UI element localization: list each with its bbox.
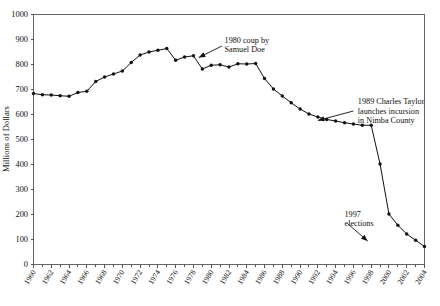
data-point (94, 80, 97, 83)
x-tick-label: 1988 (271, 268, 287, 286)
data-point (174, 59, 177, 62)
annot-1980-coup-text: 1980 coup bySamuel Doe (225, 36, 270, 55)
data-point (156, 49, 159, 52)
data-point (254, 62, 257, 65)
y-tick-label: 400 (15, 160, 28, 169)
data-point (58, 94, 61, 97)
data-point (103, 75, 106, 78)
y-tick-label: 100 (15, 235, 28, 244)
data-point (378, 162, 381, 165)
x-tick-label: 2004 (413, 268, 429, 286)
data-point (387, 212, 390, 215)
x-tick-label: 1960 (22, 268, 38, 286)
data-series (32, 47, 426, 248)
x-tick-label: 1996 (342, 268, 358, 286)
data-point (414, 239, 417, 242)
chart-container: 01002003004005006007008009001000 1960196… (0, 0, 440, 306)
y-tick-label: 0 (24, 260, 28, 269)
y-axis-title-text: Millions of Dollars (1, 105, 11, 172)
x-tick-label: 1990 (289, 268, 305, 286)
y-tick-label: 500 (15, 135, 28, 144)
data-point (201, 67, 204, 70)
data-point (192, 54, 195, 57)
x-tick-label: 1994 (324, 268, 340, 286)
y-tick-label: 900 (15, 35, 28, 44)
chart-annotations: 1980 coup bySamuel Doe1989 Charles Taylo… (199, 36, 425, 241)
data-point (183, 55, 186, 58)
data-point (307, 112, 310, 115)
x-tick-label: 1998 (360, 268, 376, 286)
y-tick-label: 800 (15, 60, 28, 69)
data-point (227, 65, 230, 68)
data-point (138, 53, 141, 56)
annot-1989-taylor-text: 1989 Charles Taylorlaunches incursionin … (358, 97, 425, 125)
x-tick-label: 1972 (129, 268, 145, 286)
y-tick-label: 1000 (11, 10, 28, 19)
x-tick-label: 1962 (40, 268, 56, 286)
y-tick-label: 300 (15, 185, 28, 194)
line-chart: 01002003004005006007008009001000 1960196… (0, 0, 440, 306)
x-tick-label: 1976 (164, 268, 180, 286)
data-point (396, 224, 399, 227)
data-point (165, 47, 168, 50)
x-tick-label: 1968 (93, 268, 109, 286)
x-tick-label: 2002 (395, 268, 411, 286)
data-point (112, 72, 115, 75)
x-tick-label: 1986 (253, 268, 269, 286)
x-tick-label: 1980 (200, 268, 216, 286)
data-point (352, 122, 355, 125)
y-tick-label: 200 (15, 210, 28, 219)
x-tick-label: 1984 (235, 268, 251, 286)
data-point (423, 245, 426, 248)
data-point (85, 90, 88, 93)
x-tick-label: 1974 (146, 268, 162, 286)
y-axis-ticks: 01002003004005006007008009001000 (11, 10, 33, 269)
x-tick-label: 1982 (218, 268, 234, 286)
data-point (263, 77, 266, 80)
data-point (272, 87, 275, 90)
data-point (236, 62, 239, 65)
data-point (405, 232, 408, 235)
data-point (298, 107, 301, 110)
x-tick-label: 1966 (75, 268, 91, 286)
x-tick-label: 1964 (58, 268, 74, 286)
data-point (67, 95, 70, 98)
series-line-gdp (34, 49, 425, 247)
y-axis-title: Millions of Dollars (1, 105, 11, 172)
data-point (281, 94, 284, 97)
data-point (343, 121, 346, 124)
y-tick-label: 700 (15, 85, 28, 94)
data-point (50, 93, 53, 96)
data-point (218, 63, 221, 66)
data-point (334, 119, 337, 122)
x-tick-label: 1992 (306, 268, 322, 286)
data-point (32, 92, 35, 95)
x-tick-label: 1978 (182, 268, 198, 286)
data-point (210, 64, 213, 67)
y-tick-label: 600 (15, 110, 28, 119)
x-axis-ticks: 1960196219641966196819701972197419761978… (22, 264, 429, 286)
data-point (130, 61, 133, 64)
data-point (121, 69, 124, 72)
data-point (290, 101, 293, 104)
data-point (245, 62, 248, 65)
x-tick-label: 2000 (377, 268, 393, 286)
data-point (76, 91, 79, 94)
data-point (147, 50, 150, 53)
x-tick-label: 1970 (111, 268, 127, 286)
annot-1980-coup-arrowhead (199, 52, 206, 57)
data-point (316, 115, 319, 118)
data-point (41, 93, 44, 96)
